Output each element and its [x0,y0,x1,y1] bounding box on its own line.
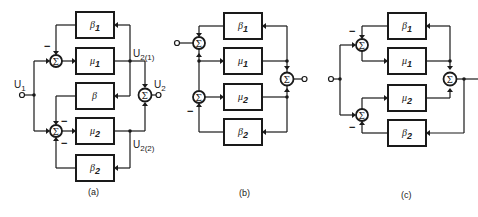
arrow-icon [359,35,365,39]
arrow-icon [53,121,59,125]
signal-u2: U2 [154,79,166,93]
output-terminal-u2 [156,93,161,98]
sigma-icon: Σ [359,41,365,51]
sigma-icon: Σ [359,111,365,121]
minus-sign: − [187,105,193,117]
arrow-icon [53,137,59,141]
minus-sign: − [61,137,67,149]
signal-u1: U1 [14,79,26,93]
signal-u2-1: U2(1) [133,48,155,62]
arrow-icon [447,66,453,70]
input-terminal-u1 [20,93,25,98]
input-terminal-b [175,41,180,46]
minus-sign: − [349,25,355,37]
panel-b: β1 μ1 μ2 β2 Σ Σ − [175,13,308,198]
arrow-icon [359,121,365,125]
sigma-icon: Σ [196,93,202,103]
panel-c: β1 μ1 μ2 β2 Σ − Σ − [329,13,478,200]
sigma-icon: Σ [447,75,453,85]
minus-sign: − [61,115,67,127]
panel-a: β1 μ1 β μ2 β2 U1 Σ − U2(1 [14,12,166,197]
sigma-icon: Σ [284,75,290,85]
arrow-icon [196,103,202,107]
arrow-icon [142,102,148,106]
sigma-icon: Σ [53,57,59,67]
arrow-icon [284,66,290,70]
minus-sign: − [44,40,50,52]
input-terminal-c [329,77,334,82]
sigma-icon: Σ [53,127,59,137]
minus-sign: − [349,121,355,133]
sigma-icon: Σ [142,91,148,101]
arrow-icon [196,53,202,57]
arrow-icon [447,88,453,92]
signal-u2-2: U2(2) [133,139,155,153]
sigma-icon: Σ [196,39,202,49]
arrow-icon [196,33,202,37]
caption-a: (a) [88,187,99,197]
caption-b: (b) [239,188,250,198]
arrow-icon [53,51,59,55]
output-terminal-b [302,77,307,82]
arrow-icon [284,88,290,92]
label-beta-a: β [91,90,97,101]
arrow-icon [142,84,148,88]
block-diagram-figure: β1 μ1 β μ2 β2 U1 Σ − U2(1 [0,0,478,217]
caption-c: (c) [401,190,412,200]
